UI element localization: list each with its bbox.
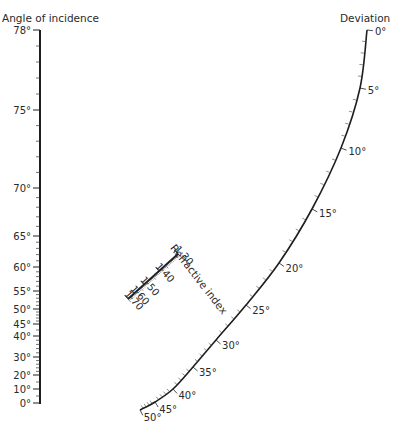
deviation-minor-tick <box>283 251 286 253</box>
deviation-minor-tick <box>250 295 253 297</box>
deviation-major-tick <box>279 263 284 266</box>
deviation-minor-tick <box>147 402 149 405</box>
deviation-minor-tick <box>144 404 146 407</box>
deviation-minor-tick <box>167 389 169 392</box>
deviation-minor-tick <box>341 135 344 136</box>
deviation-title: Deviation <box>340 12 390 24</box>
deviation-minor-tick <box>231 317 234 319</box>
deviation-minor-tick <box>186 369 189 371</box>
deviation-minor-tick <box>326 171 329 172</box>
deviation-minor-tick <box>160 394 162 397</box>
deviation-major-tick <box>312 209 317 212</box>
deviation-minor-tick <box>345 123 348 124</box>
deviation-minor-tick <box>156 397 158 400</box>
deviation-major-tick <box>173 389 177 393</box>
deviation-minor-tick <box>332 159 335 160</box>
deviation-major-tick <box>216 340 221 344</box>
deviation-tick-label: 15° <box>319 208 337 219</box>
deviation-minor-tick <box>349 111 352 112</box>
deviation-major-tick <box>193 367 198 371</box>
deviation-minor-tick <box>353 99 356 100</box>
incidence-tick-label: 50° <box>13 304 31 315</box>
deviation-minor-tick <box>219 331 222 333</box>
deviation-ticks: 0°5°10°15°20°25°30°35°40°45°50° <box>140 26 386 423</box>
incidence-tick-label: 70° <box>13 183 31 194</box>
incidence-tick-label: 0° <box>20 398 31 409</box>
incidence-tick-label: 60° <box>13 262 31 273</box>
deviation-minor-tick <box>315 196 318 197</box>
deviation-minor-tick <box>182 373 185 375</box>
deviation-minor-tick <box>200 354 203 356</box>
deviation-tick-label: 40° <box>178 390 196 401</box>
deviation-tick-label: 35° <box>199 367 217 378</box>
incidence-tick-label: 55° <box>13 286 31 297</box>
incidence-tick-label: 65° <box>13 231 31 242</box>
deviation-minor-tick <box>256 286 259 288</box>
refractive-index-ticks: 1·301·401·501·601·70 <box>122 244 195 313</box>
deviation-minor-tick <box>150 401 152 404</box>
deviation-minor-tick <box>263 278 266 280</box>
refractive-index-scale: Refractive index 1·301·401·501·601·70 <box>122 242 230 317</box>
deviation-minor-tick <box>302 218 305 220</box>
angle-of-incidence-title: Angle of incidence <box>2 12 99 24</box>
deviation-minor-tick <box>237 310 240 312</box>
incidence-ticks: 78°75°70°65°60°55°50°45°40°30°20°10°0° <box>13 25 40 409</box>
deviation-scale: Deviation 0°5°10°15°20°25°30°35°40°45°50… <box>140 12 390 423</box>
deviation-minor-tick <box>178 378 181 380</box>
incidence-tick-label: 20° <box>13 370 31 381</box>
incidence-tick-label: 75° <box>13 105 31 116</box>
nomogram: Angle of incidence 78°75°70°65°60°55°50°… <box>0 0 399 440</box>
deviation-minor-tick <box>270 269 273 271</box>
deviation-tick-label: 30° <box>222 340 240 351</box>
deviation-minor-tick <box>289 240 292 242</box>
deviation-major-tick <box>155 402 158 407</box>
incidence-tick-label: 40° <box>13 331 31 342</box>
deviation-minor-tick <box>225 324 228 326</box>
deviation-major-tick <box>360 88 366 89</box>
deviation-major-tick <box>140 410 143 415</box>
deviation-minor-tick <box>141 405 143 408</box>
deviation-minor-tick <box>296 229 299 231</box>
deviation-tick-label: 10° <box>348 146 366 157</box>
incidence-tick-label: 45° <box>13 319 31 330</box>
incidence-tick-label: 30° <box>13 352 31 363</box>
deviation-minor-tick <box>209 343 212 345</box>
incidence-tick-label: 10° <box>13 384 31 395</box>
deviation-tick-label: 20° <box>286 263 304 274</box>
deviation-minor-tick <box>204 349 207 351</box>
deviation-curve <box>140 30 367 410</box>
deviation-tick-label: 50° <box>144 412 162 423</box>
incidence-tick-label: 78° <box>13 25 31 36</box>
deviation-tick-label: 5° <box>368 85 379 96</box>
deviation-minor-tick <box>163 392 165 395</box>
deviation-tick-label: 25° <box>252 305 270 316</box>
deviation-minor-tick <box>320 183 323 184</box>
deviation-tick-label: 0° <box>375 26 386 37</box>
deviation-major-tick <box>246 305 251 309</box>
deviation-minor-tick <box>195 359 198 361</box>
angle-of-incidence-scale: Angle of incidence 78°75°70°65°60°55°50°… <box>2 12 99 409</box>
deviation-minor-tick <box>174 382 177 384</box>
deviation-tick-label: 45° <box>159 404 177 415</box>
deviation-major-tick <box>341 148 347 150</box>
deviation-major-tick <box>367 30 373 31</box>
